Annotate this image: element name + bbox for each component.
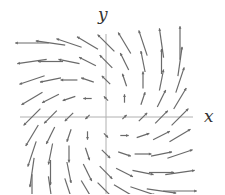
field-arrow bbox=[116, 168, 133, 176]
field-arrow bbox=[170, 129, 191, 142]
field-arrow bbox=[130, 187, 155, 194]
field-arrow bbox=[157, 90, 165, 107]
field-arrow bbox=[40, 78, 61, 82]
arrowhead-icon bbox=[142, 72, 145, 75]
field-arrow bbox=[174, 88, 187, 109]
field-arrow bbox=[151, 152, 172, 156]
arrowhead-icon bbox=[194, 190, 197, 193]
field-arrow bbox=[65, 178, 73, 194]
arrowhead-icon bbox=[179, 26, 182, 29]
arrowhead-icon bbox=[149, 153, 152, 156]
arrowhead-icon bbox=[126, 134, 129, 137]
y-axis-label: y bbox=[98, 4, 108, 24]
field-arrow bbox=[46, 127, 54, 144]
field-arrow bbox=[67, 162, 71, 183]
field-arrow bbox=[83, 164, 91, 181]
arrowhead-icon bbox=[15, 42, 18, 45]
field-arrow bbox=[114, 185, 135, 194]
vector-field-plot bbox=[0, 0, 225, 194]
field-arrow bbox=[22, 92, 43, 105]
field-arrow bbox=[176, 67, 184, 92]
field-arrow bbox=[118, 33, 131, 54]
field-arrow bbox=[167, 150, 192, 158]
field-arrow bbox=[42, 94, 59, 102]
field-arrow bbox=[26, 125, 39, 146]
field-arrow bbox=[28, 141, 36, 166]
field-arrow bbox=[153, 131, 170, 139]
arrowhead-icon bbox=[123, 94, 126, 97]
field-arrow bbox=[19, 76, 44, 84]
field-arrow bbox=[141, 51, 145, 72]
field-arrow bbox=[139, 30, 147, 55]
arrowhead-icon bbox=[83, 97, 86, 100]
arrowhead-icon bbox=[86, 137, 89, 140]
x-axis-label: x bbox=[204, 106, 214, 126]
field-arrow bbox=[120, 53, 128, 70]
field-arrow bbox=[81, 181, 94, 195]
field-arrow bbox=[77, 37, 98, 50]
field-arrow bbox=[79, 57, 96, 65]
field-arrow bbox=[56, 39, 81, 47]
arrowhead-icon bbox=[68, 160, 71, 163]
arrowhead-icon bbox=[61, 79, 64, 82]
